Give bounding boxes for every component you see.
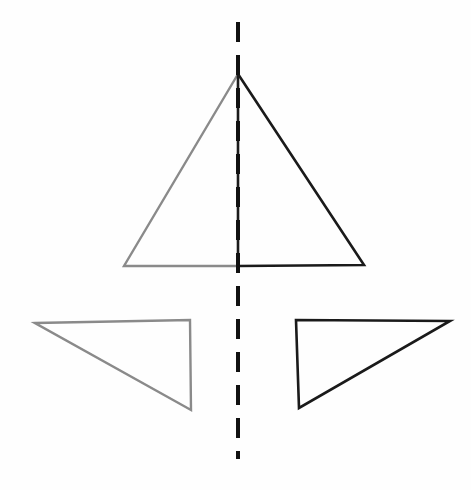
diagram-canvas	[0, 0, 471, 490]
symmetry-figure	[0, 0, 471, 490]
canvas-background	[0, 0, 471, 490]
